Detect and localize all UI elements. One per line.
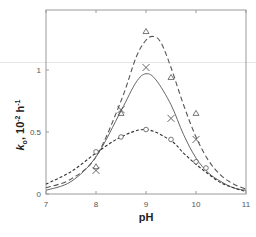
y-axis-title: ko, 10-2 h-1: [14, 99, 28, 150]
y-axis-title-exp2: -1: [14, 99, 21, 105]
fit-curves: [46, 36, 246, 191]
x-tick-label: 10: [192, 200, 201, 209]
x-tick-label: 8: [94, 200, 99, 209]
data-markers: [93, 29, 209, 174]
cross-marker: [168, 115, 175, 122]
circle-fit-curve: [46, 129, 246, 191]
circle-marker: [169, 137, 174, 142]
cross-marker: [143, 64, 150, 71]
circle-marker: [94, 150, 99, 155]
y-axis-title-unit: h: [14, 105, 26, 115]
y-axis-title-rest: , 10: [14, 122, 26, 140]
y-tick-label: 0: [37, 190, 42, 199]
triangle-fit-curve: [46, 36, 246, 189]
circle-marker: [119, 135, 124, 140]
x-tick-label: 7: [44, 200, 49, 209]
y-tick-label: 1: [37, 66, 42, 75]
triangle-marker: [193, 110, 199, 115]
y-tick-label: 0.5: [30, 128, 42, 137]
circle-marker: [144, 127, 149, 132]
plot-border: [46, 10, 246, 194]
x-tick-label: 11: [242, 200, 251, 209]
cross-marker: [93, 167, 100, 174]
ph-rate-chart: 7891011 00.51 pH ko, 10-2 h-1: [0, 0, 256, 237]
x-axis-title: pH: [139, 211, 154, 223]
circle-marker: [194, 159, 199, 164]
plot-frame: [46, 10, 246, 194]
x-tick-label: 9: [144, 200, 149, 209]
circle-marker: [204, 166, 209, 171]
triangle-marker: [143, 29, 149, 34]
cross-marker: [118, 106, 125, 113]
